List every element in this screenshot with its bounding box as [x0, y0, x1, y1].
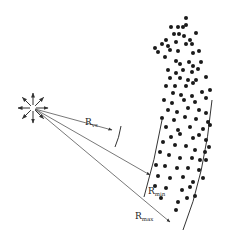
particle-dot	[156, 174, 160, 178]
particle-dot	[154, 163, 158, 167]
particle-dot	[171, 91, 175, 95]
particle-dot	[156, 50, 160, 54]
particle-dot	[188, 38, 192, 42]
particle-dot	[197, 108, 201, 112]
particle-dot	[194, 117, 198, 121]
particle-dot	[174, 59, 178, 63]
particle-dot	[176, 200, 180, 204]
particle-dot	[204, 158, 208, 162]
particle-dot	[176, 25, 180, 29]
particle-dot	[176, 128, 180, 132]
particle-dot	[190, 94, 194, 98]
particle-dot	[164, 125, 168, 129]
particle-dot	[175, 110, 179, 114]
particle-dot	[197, 168, 201, 172]
particle-dot	[184, 23, 188, 27]
arc-vs	[115, 126, 121, 147]
particle-dot	[163, 55, 167, 59]
particle-dot	[204, 111, 208, 115]
particle-dot	[158, 150, 162, 154]
particle-dot	[193, 148, 197, 152]
particle-dot	[167, 153, 171, 157]
particle-dot	[208, 88, 212, 92]
particle-dot	[162, 98, 166, 102]
particle-dot	[184, 84, 188, 88]
particle-dot	[183, 115, 187, 119]
particle-dot	[185, 196, 189, 200]
particle-dot	[186, 166, 190, 170]
particle-dot	[163, 164, 167, 168]
particle-dot	[204, 96, 208, 100]
particle-dot	[187, 60, 191, 64]
particle-dot	[174, 208, 178, 212]
particle-dot	[164, 84, 168, 88]
particle-dot	[190, 42, 194, 46]
particle-dot	[200, 90, 204, 94]
particle-dot	[173, 84, 177, 88]
particle-dot	[184, 42, 188, 46]
particle-dot	[178, 62, 182, 66]
particle-dot	[164, 186, 168, 190]
r-max-arrow	[35, 109, 170, 222]
particle-dot	[191, 51, 195, 55]
r-max-label: Rmax	[135, 211, 154, 222]
particle-dot	[201, 176, 205, 180]
particle-dot	[178, 132, 182, 136]
particle-dot	[186, 78, 190, 82]
particle-dot	[169, 135, 173, 139]
particle-dot	[178, 156, 182, 160]
particle-dot	[180, 188, 184, 192]
particle-dot	[161, 140, 165, 144]
particle-dot	[196, 67, 200, 71]
particle-dot	[173, 143, 177, 147]
particle-dot	[182, 34, 186, 38]
particle-dot	[172, 118, 176, 122]
particle-dot	[194, 31, 198, 35]
particle-dot	[197, 49, 201, 53]
particle-dot	[184, 144, 188, 148]
particle-dot	[166, 68, 170, 72]
particle-dot	[168, 176, 172, 180]
r-vs-arrow	[35, 109, 112, 130]
particle-dot	[169, 25, 173, 29]
source-ray-arrow-icon	[35, 97, 43, 105]
particle-dot	[166, 108, 170, 112]
source-ray-arrow-icon	[22, 97, 30, 105]
particle-dot	[168, 76, 172, 80]
particle-dot	[177, 32, 181, 36]
particle-dot	[174, 40, 178, 44]
r-vs-label: Rvs	[85, 117, 98, 128]
r-min-label: Rmin	[148, 186, 166, 197]
particle-dot	[191, 136, 195, 140]
particle-dot	[160, 116, 164, 120]
radius-arrows	[35, 109, 170, 222]
particle-dot	[203, 150, 207, 154]
source-ray-arrow-icon	[22, 110, 30, 118]
particle-dot	[178, 76, 182, 80]
particle-dot	[184, 16, 188, 20]
particle-dot	[175, 166, 179, 170]
particle-dot	[153, 46, 157, 50]
particle-dot	[172, 32, 176, 36]
particle-dot	[191, 180, 195, 184]
particle-dot	[207, 145, 211, 149]
particle-dot	[199, 60, 203, 64]
particle-dot	[204, 138, 208, 142]
radius-labels: RvsRminRmax	[85, 117, 166, 222]
particle-cloud	[153, 16, 212, 212]
particle-dot	[204, 75, 208, 79]
r-min-arrow	[35, 109, 150, 175]
particle-dot	[164, 38, 168, 42]
particle-dot	[176, 49, 180, 53]
particle-dot	[174, 71, 178, 75]
particle-dot	[208, 123, 212, 127]
particle-dot	[191, 64, 195, 68]
particle-dot	[166, 44, 170, 48]
particle-dot	[186, 106, 190, 110]
particle-dot	[193, 100, 197, 104]
particle-dot	[190, 156, 194, 160]
particle-dot	[181, 175, 185, 179]
particle-dot	[179, 93, 183, 97]
particle-dot	[190, 70, 194, 74]
particle-dot	[168, 48, 172, 52]
